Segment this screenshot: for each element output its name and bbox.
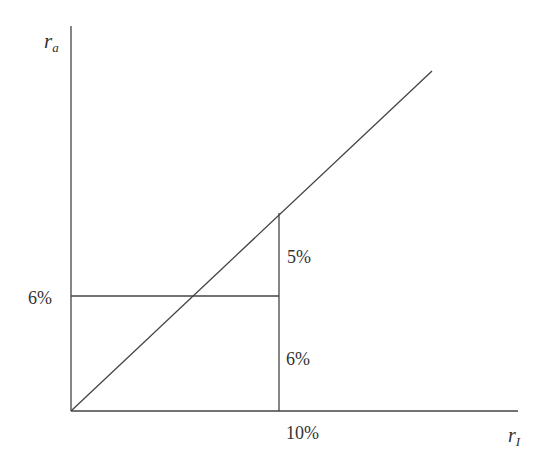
- diagonal-line: [71, 71, 432, 411]
- x-axis-label: rI: [508, 424, 521, 449]
- x-tick-10pct: 10%: [286, 423, 319, 443]
- lower-segment-label: 6%: [286, 349, 310, 369]
- diagram-canvas: ra rI 6% 10% 5% 6%: [0, 0, 548, 462]
- upper-segment-label: 5%: [287, 247, 311, 267]
- y-tick-6pct: 6%: [28, 288, 52, 308]
- y-axis-label: ra: [44, 29, 59, 55]
